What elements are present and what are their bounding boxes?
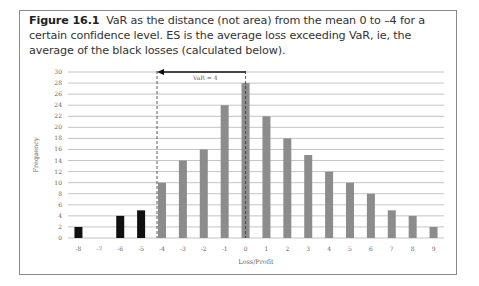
x-tick-label: 9 [432,245,436,252]
y-axis-ticks: 024681012141618202224262830 [54,68,62,241]
bar [158,183,166,238]
bar [283,138,291,238]
y-tick-label: 24 [54,101,62,108]
x-tick-label: -2 [201,245,207,252]
x-axis-ticks: -8-7-6-5-4-3-2-10123456789 [76,245,436,252]
y-tick-label: 18 [54,134,62,141]
y-tick-label: 22 [54,112,62,119]
bar [221,105,229,238]
y-tick-label: 0 [58,234,62,241]
bar [367,194,375,238]
x-tick-label: 8 [411,245,415,252]
y-tick-label: 2 [58,223,62,230]
bar [430,227,438,238]
x-tick-label: -1 [222,245,228,252]
x-tick-label: 3 [306,245,310,252]
var-label: VaR = 4 [192,74,218,81]
bar [137,210,145,238]
bar [388,210,396,238]
x-tick-label: -4 [159,245,165,252]
x-tick-label: 1 [265,245,269,252]
bar [325,172,333,238]
y-tick-label: 28 [54,79,62,86]
y-axis-title: Frequency [32,137,40,172]
x-tick-label: 2 [285,245,289,252]
x-tick-label: -8 [76,245,82,252]
bar [346,183,354,238]
x-tick-label: -7 [96,245,102,252]
bar [200,149,208,238]
y-tick-label: 30 [54,68,62,75]
x-tick-label: -3 [180,245,186,252]
x-tick-label: 5 [348,245,352,252]
bar-chart: 024681012141618202224262830 -8-7-6-5-4-3… [0,0,479,286]
x-tick-label: 7 [390,245,394,252]
x-tick-label: 4 [327,245,331,252]
bar [409,216,417,238]
bar [116,216,124,238]
y-tick-label: 26 [54,90,62,97]
bar [304,155,312,238]
x-tick-label: 6 [369,245,373,252]
arrow-head-icon [157,69,164,75]
y-tick-label: 20 [54,123,62,130]
gridlines [68,72,444,238]
bar [179,161,187,238]
y-tick-label: 16 [54,145,62,152]
y-tick-label: 12 [54,168,62,175]
bar [262,116,270,238]
y-tick-label: 14 [54,157,62,164]
x-tick-label: 0 [244,245,248,252]
x-tick-label: -6 [117,245,123,252]
bar [74,227,82,238]
y-tick-label: 6 [58,201,62,208]
x-axis-title: Loss/Profit [238,258,274,266]
y-tick-label: 8 [58,190,62,197]
y-tick-label: 4 [58,212,62,219]
y-tick-label: 10 [54,179,62,186]
x-tick-label: -5 [138,245,144,252]
